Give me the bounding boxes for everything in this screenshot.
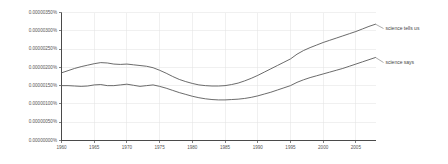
series-label-1: science says (386, 59, 415, 65)
x-tick-label: 1965 (89, 145, 100, 150)
y-axis-tick-labels: 0.00000000%0.00000050%0.00000100%0.00000… (29, 10, 57, 143)
series-label-leaders (376, 24, 384, 62)
x-tick-label: 1975 (155, 145, 166, 150)
y-tick-label: 0.00000350% (29, 10, 57, 15)
x-tick-label: 1980 (187, 145, 198, 150)
series-label-0: science tells us (386, 25, 420, 31)
series-line-0 (62, 24, 376, 86)
y-tick-label: 0.00000200% (29, 65, 57, 70)
ngram-chart: 0.00000000%0.00000050%0.00000100%0.00000… (0, 0, 448, 164)
x-tick-label: 1990 (253, 145, 264, 150)
series-line-1 (62, 57, 376, 99)
x-tick-label: 2000 (318, 145, 329, 150)
y-tick-label: 0.00000300% (29, 28, 57, 33)
x-tick-label: 1995 (285, 145, 296, 150)
y-tick-label: 0.00000000% (29, 138, 57, 143)
y-tick-label: 0.00000150% (29, 83, 57, 88)
series-labels: science tells usscience says (386, 25, 420, 65)
gridlines (62, 13, 376, 141)
series-lines (62, 24, 376, 100)
x-tick-label: 1970 (122, 145, 133, 150)
y-tick-label: 0.00000250% (29, 46, 57, 51)
series-label-leader-1 (376, 57, 384, 62)
x-tick-label: 1985 (220, 145, 231, 150)
series-label-leader-0 (376, 24, 384, 28)
y-tick-label: 0.00000100% (29, 101, 57, 106)
y-tick-label: 0.00000050% (29, 119, 57, 124)
x-tick-label: 2005 (351, 145, 362, 150)
axes (59, 13, 376, 144)
x-tick-label: 1960 (56, 145, 67, 150)
x-axis-tick-labels: 1960196519701975198019851990199520002005 (56, 145, 361, 150)
ngram-plot-svg: 0.00000000%0.00000050%0.00000100%0.00000… (0, 0, 448, 164)
